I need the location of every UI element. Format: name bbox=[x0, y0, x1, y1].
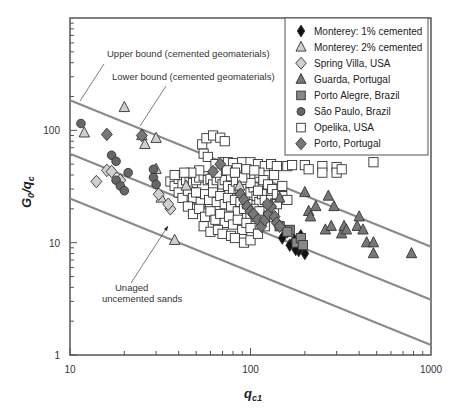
data-point bbox=[283, 227, 292, 236]
y-axis-title: G0/qc bbox=[19, 176, 36, 208]
data-point bbox=[304, 165, 313, 174]
annotation-label: Unaged bbox=[115, 282, 148, 293]
data-point bbox=[192, 188, 201, 197]
data-point bbox=[230, 168, 239, 177]
legend-label: São Paulo, Brazil bbox=[314, 106, 391, 117]
data-point bbox=[180, 168, 189, 177]
scatter-chart: 101001000110100 Upper bound (cemented ge… bbox=[0, 0, 457, 416]
annotation-label: Upper bound (cemented geomaterials) bbox=[107, 48, 270, 59]
data-point bbox=[369, 158, 378, 167]
data-point bbox=[206, 207, 215, 216]
x-tick-label: 10 bbox=[64, 364, 76, 375]
legend-marker-icon bbox=[297, 123, 306, 132]
data-point bbox=[77, 119, 86, 128]
legend-label: Porto, Portugal bbox=[314, 138, 381, 149]
x-axis-title: qc1 bbox=[244, 386, 262, 403]
legend-label: Porto Alegre, Brazil bbox=[314, 90, 400, 101]
legend-marker-icon bbox=[297, 108, 305, 116]
x-tick-label: 1000 bbox=[420, 364, 443, 375]
legend-marker-icon bbox=[297, 91, 306, 100]
data-point bbox=[287, 161, 296, 170]
annotation-label: uncemented sands bbox=[102, 293, 183, 304]
data-point bbox=[149, 165, 158, 174]
data-point bbox=[253, 186, 262, 195]
legend-label: Spring Villa, USA bbox=[314, 58, 391, 69]
data-point bbox=[233, 215, 242, 224]
data-point bbox=[120, 186, 129, 195]
data-point bbox=[298, 241, 307, 250]
legend: Monterey: 1% cementedMonterey: 2% cement… bbox=[285, 18, 428, 155]
data-point bbox=[170, 170, 179, 179]
legend-label: Monterey: 1% cemented bbox=[314, 26, 422, 37]
data-point bbox=[216, 209, 225, 218]
data-point bbox=[278, 181, 287, 190]
legend-label: Opelika, USA bbox=[314, 122, 374, 133]
y-tick-label: 100 bbox=[43, 125, 60, 136]
data-point bbox=[337, 165, 346, 174]
data-point bbox=[250, 166, 259, 175]
data-point bbox=[272, 162, 281, 171]
data-point bbox=[269, 170, 278, 179]
legend-label: Monterey: 2% cemented bbox=[314, 42, 422, 53]
data-point bbox=[124, 168, 133, 177]
y-tick-label: 1 bbox=[54, 350, 60, 361]
data-point bbox=[218, 229, 227, 238]
data-point bbox=[220, 137, 229, 146]
data-point bbox=[112, 157, 121, 166]
legend-label: Guarda, Portugal bbox=[314, 74, 390, 85]
annotation-label: Lower bound (cemented geomaterials) bbox=[112, 71, 275, 82]
y-tick-label: 10 bbox=[49, 238, 61, 249]
data-point bbox=[230, 233, 239, 242]
x-tick-label: 100 bbox=[242, 364, 259, 375]
data-point bbox=[318, 168, 327, 177]
data-point bbox=[152, 180, 161, 189]
